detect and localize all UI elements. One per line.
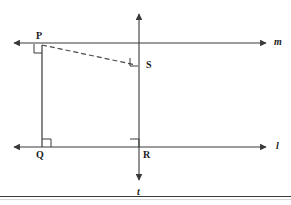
point-label-q: Q xyxy=(36,150,44,160)
right-angle-mark-q xyxy=(42,139,51,147)
right-angle-mark-s xyxy=(130,58,138,66)
segment-ps xyxy=(42,45,136,65)
line-label-l: l xyxy=(276,141,279,151)
line-label-m: m xyxy=(274,37,282,47)
point-label-p: P xyxy=(36,31,42,41)
geometry-canvas xyxy=(0,0,291,205)
point-label-s: S xyxy=(146,60,152,70)
geometry-figure: P S Q R m l t xyxy=(0,0,291,205)
point-label-r: R xyxy=(143,150,150,160)
right-angle-mark-r xyxy=(130,139,139,147)
page-divider-rule xyxy=(0,196,291,197)
page-divider-rule-secondary xyxy=(0,199,291,200)
right-angle-mark-p xyxy=(34,44,42,53)
